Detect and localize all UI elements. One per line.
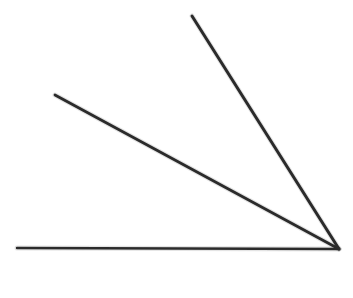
angle-diagram-canvas xyxy=(0,0,353,298)
angle-diagram-svg xyxy=(0,0,353,298)
horizontal-baseline xyxy=(17,248,339,249)
background-rect xyxy=(0,0,353,298)
